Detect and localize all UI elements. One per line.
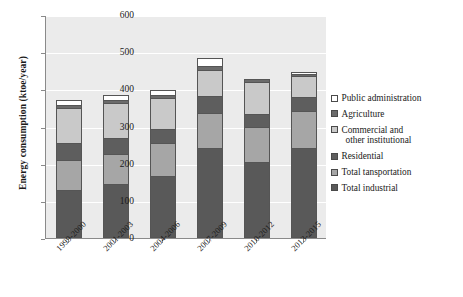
bar-segment[interactable] bbox=[197, 58, 223, 66]
bar-segment[interactable] bbox=[150, 98, 176, 129]
y-tick-mark bbox=[41, 165, 45, 166]
legend-swatch bbox=[331, 184, 338, 191]
y-tick-mark bbox=[41, 53, 45, 54]
y-tick-label: 400 bbox=[102, 86, 134, 96]
y-axis-title: Energy consumption (ktoe/year) bbox=[18, 8, 28, 238]
plot-area bbox=[45, 16, 326, 239]
y-tick-mark bbox=[41, 128, 45, 129]
legend-item[interactable]: Commercial andother institutional bbox=[331, 125, 463, 146]
bars-container bbox=[46, 16, 326, 238]
bar-segment[interactable] bbox=[244, 127, 270, 162]
bar-column[interactable] bbox=[197, 58, 223, 238]
bar-segment[interactable] bbox=[197, 113, 223, 148]
bar-segment[interactable] bbox=[56, 143, 82, 160]
y-tick-label: 100 bbox=[102, 197, 134, 207]
energy-consumption-chart: Energy consumption (ktoe/year) 010020030… bbox=[0, 0, 463, 297]
legend-label: Total tansportation bbox=[342, 167, 463, 177]
bar-column[interactable] bbox=[291, 72, 317, 238]
legend-swatch bbox=[331, 153, 338, 160]
legend-item[interactable]: Residential bbox=[331, 151, 463, 161]
bar-segment[interactable] bbox=[291, 76, 317, 98]
legend-swatch bbox=[331, 95, 338, 102]
legend-label: Public administration bbox=[342, 93, 463, 103]
bar-segment[interactable] bbox=[150, 143, 176, 176]
legend-item[interactable]: Total industrial bbox=[331, 183, 463, 193]
bar-segment[interactable] bbox=[291, 97, 317, 110]
legend-swatch bbox=[331, 110, 338, 117]
bar-segment[interactable] bbox=[150, 129, 176, 143]
bar-segment[interactable] bbox=[197, 70, 223, 95]
bar-column[interactable] bbox=[150, 90, 176, 238]
y-tick-label: 200 bbox=[102, 160, 134, 170]
bar-segment[interactable] bbox=[291, 111, 317, 149]
chart-legend: Public administrationAgricultureCommerci… bbox=[331, 93, 463, 199]
bar-segment[interactable] bbox=[103, 138, 129, 154]
y-tick-label: 500 bbox=[102, 48, 134, 58]
legend-item[interactable]: Public administration bbox=[331, 93, 463, 103]
y-tick-mark bbox=[41, 16, 45, 17]
legend-label: Agriculture bbox=[342, 109, 463, 119]
bar-segment[interactable] bbox=[56, 160, 82, 190]
legend-label-line2: other institutional bbox=[342, 135, 463, 145]
y-tick-label: 600 bbox=[102, 11, 134, 21]
bar-segment[interactable] bbox=[244, 82, 270, 114]
legend-item[interactable]: Total tansportation bbox=[331, 167, 463, 177]
legend-label: Total industrial bbox=[342, 183, 463, 193]
bar-segment[interactable] bbox=[197, 96, 223, 113]
bar-column[interactable] bbox=[56, 100, 82, 238]
bar-column[interactable] bbox=[244, 79, 270, 238]
bar-segment[interactable] bbox=[244, 114, 270, 128]
y-tick-mark bbox=[41, 202, 45, 203]
legend-swatch bbox=[331, 169, 338, 176]
bar-segment[interactable] bbox=[56, 108, 82, 144]
legend-label: Commercial andother institutional bbox=[342, 125, 463, 146]
legend-swatch bbox=[331, 126, 338, 133]
y-tick-label: 300 bbox=[102, 123, 134, 133]
y-tick-mark bbox=[41, 239, 45, 240]
legend-label: Residential bbox=[342, 151, 463, 161]
y-tick-mark bbox=[41, 90, 45, 91]
legend-item[interactable]: Agriculture bbox=[331, 109, 463, 119]
